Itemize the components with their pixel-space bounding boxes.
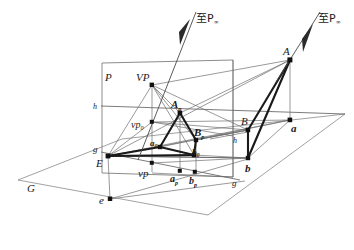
- vp-fan-Bp: [152, 85, 196, 140]
- label-object-top-a: A: [282, 45, 290, 57]
- node-vp0: [150, 120, 154, 124]
- label-picture-plane: P: [104, 71, 112, 83]
- label-eye-point-base: e: [99, 194, 104, 206]
- ground-far-edge: [152, 158, 248, 163]
- label-horizon-left: h: [93, 102, 97, 111]
- edge-A-b: [248, 60, 290, 158]
- label-proj-a: Ap: [170, 98, 181, 112]
- node-E: [106, 154, 111, 159]
- vp0-fan-a: [152, 120, 290, 122]
- node-B: [246, 128, 251, 133]
- picture-plane-outline: [102, 60, 233, 177]
- node-a0: [158, 145, 162, 149]
- label-arrow-left: 至P∞: [196, 12, 219, 25]
- label-object-top-b: B: [241, 115, 248, 127]
- node-A: [287, 57, 292, 62]
- horizon-line-h: [101, 106, 345, 114]
- label-vanishing-point-zero: vp0: [131, 119, 143, 131]
- node-ap: [178, 169, 182, 173]
- diagram-canvas: 至P∞ 至P∞ P G h g g h VP vp vp0 E e A B a …: [0, 0, 354, 250]
- label-horizon-right: h: [233, 136, 237, 145]
- sight-ray-E-vp0: [108, 122, 152, 156]
- node-VP: [150, 83, 154, 87]
- label-base-a-zero: a0: [150, 138, 158, 149]
- edge-Ap-a0: [160, 113, 180, 147]
- node-Bp: [194, 138, 198, 142]
- edge-a0-b0: [160, 147, 194, 155]
- node-vp: [150, 161, 154, 165]
- node-e: [108, 197, 112, 201]
- label-ground-right: g: [232, 178, 237, 188]
- label-proj-b: Bp: [193, 126, 204, 140]
- label-base-b-zero: b0: [192, 147, 200, 158]
- label-vanishing-point-base: vp: [138, 167, 149, 179]
- perspective-diagram-figure: 至P∞ 至P∞ P G h g g h VP vp vp0 E e A B a …: [0, 0, 354, 250]
- footprint-a-b: [248, 120, 290, 158]
- label-vanishing-point: VP: [136, 71, 150, 83]
- edge-E-b0: [108, 155, 194, 156]
- picture-plane-group: [102, 60, 233, 177]
- ground-connector-e-b: [110, 159, 248, 199]
- sight-ray-E-VP: [108, 85, 152, 156]
- label-ground-left: g: [93, 144, 98, 154]
- label-eye-point: E: [95, 157, 103, 169]
- node-bp: [193, 170, 197, 174]
- arrowhead-right-icon: [302, 24, 313, 52]
- label-arrow-right: 至P∞: [318, 12, 341, 25]
- label-base-b-p: bp: [189, 175, 197, 188]
- ray-left-to-p-infinity: [138, 12, 196, 160]
- vertical-E-e: [108, 156, 110, 199]
- label-object-base-a: a: [291, 122, 297, 134]
- label-ground-plane: G: [27, 182, 35, 194]
- node-b: [246, 156, 250, 160]
- label-object-base-b: b: [245, 162, 251, 174]
- horizon-line-group: [101, 106, 345, 114]
